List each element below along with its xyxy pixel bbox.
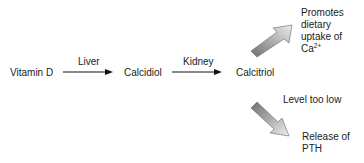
node-calcidiol: Calcidiol — [124, 67, 162, 78]
promotes-line-4: Ca2+ — [301, 43, 321, 54]
thick-arrow-down — [251, 102, 289, 136]
promotes-line-1: Promotes — [301, 7, 344, 18]
edge-label-level-too-low: Level too low — [283, 94, 341, 105]
calcium-symbol: Ca — [301, 43, 314, 54]
promotes-line-3: uptake of — [301, 31, 342, 42]
edge-label-kidney: Kidney — [183, 56, 214, 67]
calcium-charge: 2+ — [314, 42, 321, 49]
promotes-line-2: dietary — [301, 19, 331, 30]
release-line-1: Release of — [302, 131, 350, 142]
node-vitamin-d: Vitamin D — [10, 67, 53, 78]
thick-arrow-up — [251, 25, 292, 57]
node-calcitriol: Calcitriol — [236, 67, 274, 78]
kidney-arrow — [172, 69, 222, 75]
release-line-2: PTH — [302, 143, 322, 154]
liver-arrow — [63, 69, 113, 75]
edge-label-liver: Liver — [78, 56, 100, 67]
